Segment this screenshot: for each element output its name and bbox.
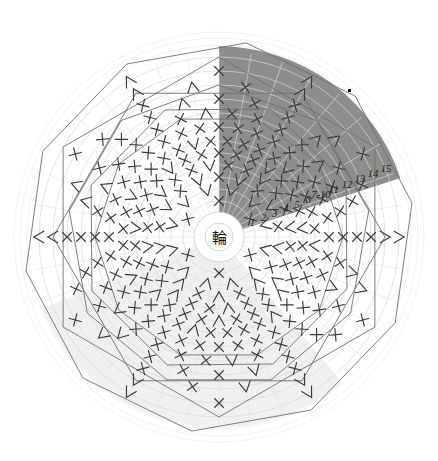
stitch-symbol-single-crochet-r12 [346, 195, 358, 207]
stitch-symbol-single-crochet-r7-10 [316, 269, 328, 281]
stitch-symbol-single-crochet-r5 [133, 205, 145, 217]
stitch-symbol-single-crochet-r3 [273, 221, 284, 232]
stitch-symbol-single-crochet-r12 [80, 267, 92, 279]
stitch-symbol-single-crochet-r7-10 [322, 212, 333, 223]
stitch-symbol-decrease-r15 [126, 77, 136, 89]
stitch-symbol-single-crochet-r5 [140, 189, 153, 202]
stitch-symbol-single-crochet-r7-10 [105, 212, 116, 223]
stitch-symbol-decrease-r12 [346, 266, 358, 277]
round-number-label-15: 15 [381, 163, 392, 174]
round-number-label-1: 1 [250, 217, 255, 228]
stitch-symbol-single-crochet-r11 [151, 123, 164, 136]
stitch-symbol-increase-r5 [297, 222, 308, 234]
stitch-symbol-single-crochet-r5 [285, 273, 298, 286]
stitch-symbol-increase-r2 [166, 218, 178, 229]
stitch-symbol-single-crochet-r6 [300, 271, 313, 284]
stitch-symbol-single-crochet-r7-10 [158, 135, 171, 148]
stitch-symbol-single-crochet-r12 [144, 111, 157, 124]
stitch-symbol-single-crochet-r6 [172, 144, 185, 157]
stitch-symbol-single-crochet-r6 [306, 256, 318, 268]
stitch-symbol-single-crochet-r7-10 [175, 128, 187, 140]
stitch-symbol-single-crochet-r5 [133, 257, 145, 269]
stitch-symbol-single-crochet-r6 [120, 206, 132, 218]
stitch-symbol-single-crochet-r4 [146, 203, 158, 215]
stitch-symbol-increase-r2 [260, 245, 272, 256]
stitch-symbol-increase-r3 [160, 199, 172, 209]
stitch-symbol-single-crochet-r6 [157, 152, 170, 165]
stitch-symbol-single-crochet-r11 [313, 303, 326, 316]
stitch-symbol-increase-r4 [203, 160, 215, 171]
stitch-symbol-decrease-r12 [81, 197, 93, 208]
round-number-label-13: 13 [355, 173, 366, 184]
stitch-symbol-single-crochet-r7-10 [194, 123, 205, 134]
stitch-symbol-single-crochet-r6 [134, 175, 147, 188]
stitch-symbol-single-crochet-r7-10 [297, 301, 310, 314]
stitch-symbol-increase-r4 [285, 221, 296, 233]
stitch-symbol-single-crochet-r7-10 [128, 160, 141, 173]
stitch-symbol-decrease-r11 [201, 108, 213, 119]
stitch-symbol-single-crochet-r7-10 [105, 251, 116, 262]
stitch-symbol-single-crochet-r14 [356, 314, 369, 327]
round-number-label-14: 14 [368, 168, 379, 179]
stitch-symbol-single-crochet-r7-10 [117, 176, 130, 189]
stitch-symbol-increase-r5 [278, 290, 290, 301]
stitch-symbol-single-crochet-r3 [154, 221, 165, 232]
stitch-symbol-increase-r6 [187, 138, 198, 150]
stitch-symbol-single-crochet-r7-10 [308, 286, 321, 299]
stitch-symbol-single-crochet-r3 [264, 261, 277, 274]
stitch-symbol-increase-r5 [130, 222, 141, 234]
stitch-symbol-single-crochet-r7-10 [110, 193, 122, 205]
round-number-label-2: 2 [261, 212, 267, 223]
start-marker-dot [348, 89, 351, 92]
stitch-symbol-single-crochet-r4 [279, 258, 291, 270]
round-number-label-5: 5 [294, 199, 299, 210]
round-number-label-4: 4 [283, 203, 289, 214]
stitch-symbol-increase-r4 [272, 278, 284, 289]
stitch-symbol-single-crochet-r11 [112, 157, 125, 170]
round-number-label-3: 3 [271, 208, 277, 219]
markers-layer [348, 89, 351, 92]
crochet-chart-svg: 輪 1234567-101112131415 [0, 0, 438, 461]
stitch-symbol-increase-r4 [154, 185, 166, 196]
crochet-chart-root: 輪 1234567-101112131415 [0, 0, 438, 461]
stitch-symbol-increase-r4 [142, 241, 153, 253]
stitch-symbol-increase-r2 [177, 195, 189, 207]
dark-sector [219, 46, 400, 237]
stitch-symbol-single-crochet-r7-10 [142, 146, 155, 159]
stitch-symbol-single-crochet-r13 [96, 133, 109, 146]
stitch-symbol-single-crochet-r14 [69, 148, 82, 161]
stitch-symbol-single-crochet-r7-10 [322, 251, 333, 262]
stitch-symbol-single-crochet-r5 [293, 257, 305, 269]
round-number-label-11: 11 [329, 184, 339, 195]
round-number-label-12: 12 [342, 179, 353, 190]
stitch-symbol-increase-r2 [200, 184, 211, 196]
stitch-symbol-single-crochet-r6 [120, 256, 132, 268]
stitch-symbol-decrease-r12 [179, 99, 190, 111]
magic-ring-label: 輪 [212, 229, 227, 247]
stitch-symbol-single-crochet-r4 [185, 164, 197, 176]
center-ring-group: 輪 [194, 212, 244, 262]
stitch-symbol-single-crochet-r6 [291, 285, 304, 298]
